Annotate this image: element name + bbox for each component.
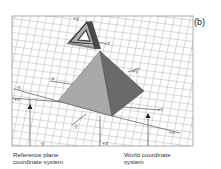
- label-plus-y-right: +y: [132, 68, 138, 74]
- caption-reference-line-2: coordinate system: [13, 158, 93, 165]
- caption-world-line-2: system: [124, 158, 204, 165]
- label-plus-y-top: +y: [73, 15, 79, 21]
- label-plus-x-ref: +x: [169, 129, 175, 135]
- label-plus-z-left: +z: [14, 96, 20, 102]
- label-plus-x-world: +x: [157, 106, 163, 112]
- triangle-object: [66, 21, 101, 49]
- coordinate-systems-diagram: +y +z -x -x +y +x +x -y -y +z +z: [0, 0, 221, 169]
- label-minus-y-ref: -y: [40, 140, 45, 146]
- caption-world-line-1: World coordinate: [124, 151, 204, 158]
- label-plus-z-object: +z: [104, 40, 110, 46]
- arrow-world-icon: [146, 113, 151, 118]
- caption-reference-line-1: Reference plane: [13, 151, 93, 158]
- label-minus-x-ref: -x: [50, 75, 55, 81]
- panel-label: (b): [194, 17, 205, 27]
- label-plus-z-world: +z: [102, 140, 108, 146]
- caption-reference-plane: Reference plane coordinate system: [13, 151, 93, 165]
- caption-world-coordinate: World coordinate system: [124, 151, 204, 165]
- label-minus-x-left: -x: [16, 84, 21, 90]
- label-minus-y-world: -y: [73, 123, 78, 129]
